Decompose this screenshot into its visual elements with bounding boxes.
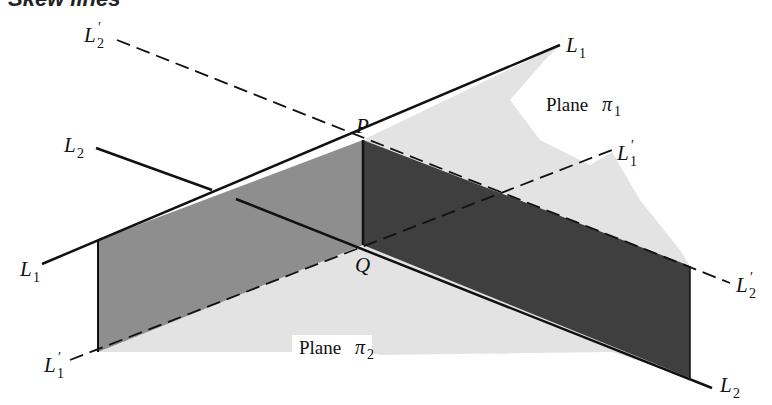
label-P: P	[355, 114, 369, 138]
line-L2-upper	[96, 148, 212, 190]
svg-text:Plane: Plane	[299, 337, 341, 358]
svg-text:L: L	[616, 141, 629, 165]
svg-text:L: L	[19, 257, 32, 281]
label-L2-bottom: L 2	[719, 373, 740, 401]
label-Q: Q	[355, 253, 370, 277]
svg-text:2: 2	[77, 146, 84, 161]
svg-text:L: L	[83, 23, 96, 47]
svg-text:L: L	[63, 133, 76, 157]
svg-text:π: π	[602, 93, 613, 115]
svg-text:Plane: Plane	[546, 94, 588, 115]
svg-text:2: 2	[733, 386, 740, 401]
label-L1-left: L 1	[19, 257, 40, 285]
svg-text:2: 2	[367, 347, 374, 362]
label-L2-prime-right: L ′ 2	[735, 270, 756, 301]
svg-text:1: 1	[33, 270, 40, 285]
svg-text:2: 2	[97, 36, 104, 51]
svg-text:L: L	[719, 373, 732, 397]
svg-text:L: L	[43, 353, 56, 377]
svg-text:′: ′	[58, 350, 61, 365]
label-plane-pi1: Plane π 1	[546, 93, 621, 119]
svg-text:L: L	[735, 273, 748, 297]
label-L1-prime-left: L ′ 1	[43, 350, 64, 381]
svg-text:1: 1	[579, 46, 586, 61]
svg-text:′: ′	[98, 20, 101, 35]
label-L1-prime-right: L ′ 1	[616, 138, 637, 169]
label-L2-left: L 2	[63, 133, 84, 161]
svg-text:1: 1	[630, 154, 637, 169]
label-L1-top: L 1	[565, 33, 586, 61]
svg-text:L: L	[565, 33, 578, 57]
svg-text:1: 1	[614, 104, 621, 119]
svg-text:′: ′	[631, 138, 634, 153]
skew-lines-diagram: L 1 L 1 L 2 L 2 L ′ 2 L ′ 2 L ′ 1 L ′ 1 …	[0, 0, 772, 405]
svg-text:′: ′	[750, 270, 753, 285]
label-L2-prime-top: L ′ 2	[83, 20, 104, 51]
svg-text:1: 1	[57, 366, 64, 381]
svg-text:π: π	[355, 336, 366, 358]
svg-text:2: 2	[749, 286, 756, 301]
label-plane-pi2: Plane π 2	[292, 335, 374, 365]
